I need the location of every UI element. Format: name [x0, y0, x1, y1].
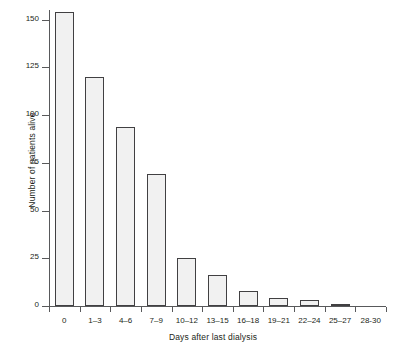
bar-10-12 [177, 258, 196, 306]
y-tick-label: 50 [30, 205, 39, 214]
x-tick-label: 4–6 [119, 316, 132, 325]
x-tick-boundary [233, 307, 234, 312]
y-tick-0: 0 [42, 306, 49, 307]
x-tick-label: 28-30 [360, 316, 380, 325]
x-tick-label: 22–24 [298, 316, 320, 325]
y-tick-100: 100 [42, 115, 49, 116]
y-tick-label: 150 [26, 14, 39, 23]
y-tick-label: 125 [26, 61, 39, 70]
x-tick-boundary [386, 307, 387, 312]
x-tick-label: 25–27 [329, 316, 351, 325]
x-tick-label: 1–3 [88, 316, 101, 325]
bar-7-9 [147, 174, 166, 306]
bar-chart-figure: Number of patients alive 025507510012515… [0, 0, 394, 352]
y-tick-label: 100 [26, 109, 39, 118]
y-tick-50: 50 [42, 211, 49, 212]
bar-1-3 [85, 77, 104, 306]
x-tick-label: 0 [62, 316, 66, 325]
x-tick-boundary [110, 307, 111, 312]
y-tick-75: 75 [42, 163, 49, 164]
x-tick-boundary [49, 307, 50, 312]
bar-0 [55, 12, 74, 306]
x-tick-boundary [172, 307, 173, 312]
x-tick-boundary [202, 307, 203, 312]
x-tick-label: 13–15 [206, 316, 228, 325]
bar-16-18 [239, 291, 258, 306]
y-tick-label: 75 [30, 157, 39, 166]
x-tick-label: 16–18 [237, 316, 259, 325]
y-tick-150: 150 [42, 20, 49, 21]
bar-22-24 [300, 300, 319, 306]
x-tick-label: 7–9 [150, 316, 163, 325]
x-axis-title: Days after last dialysis [0, 332, 394, 342]
x-tick-boundary [80, 307, 81, 312]
x-tick-boundary [355, 307, 356, 312]
y-tick-label: 0 [35, 300, 39, 309]
x-tick-boundary [141, 307, 142, 312]
x-tick-boundary [294, 307, 295, 312]
bar-25-27 [331, 304, 350, 306]
x-tick-boundary [325, 307, 326, 312]
x-tick-boundary [263, 307, 264, 312]
plot-area: 0255075100125150 01–34–67–910–1213–1516–… [49, 8, 386, 306]
y-tick-125: 125 [42, 67, 49, 68]
x-tick-label: 19–21 [268, 316, 290, 325]
bar-13-15 [208, 275, 227, 306]
x-axis-line [49, 306, 386, 307]
y-axis-line [49, 10, 50, 306]
y-tick-label: 25 [30, 252, 39, 261]
bar-19-21 [269, 298, 288, 306]
bar-4-6 [116, 127, 135, 307]
x-tick-label: 10–12 [176, 316, 198, 325]
y-tick-25: 25 [42, 258, 49, 259]
